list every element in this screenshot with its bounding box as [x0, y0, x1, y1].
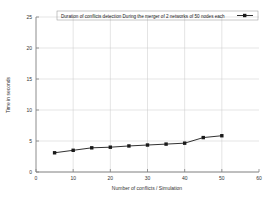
data-series — [53, 134, 224, 154]
legend-label-0: Duration of conflicts detection During t… — [61, 14, 225, 19]
y-tick-label: 15 — [26, 76, 32, 82]
series-markers-0 — [53, 134, 224, 154]
x-tick-label: 60 — [256, 175, 262, 181]
y-tick-label: 25 — [26, 14, 32, 20]
grid-lines — [36, 17, 259, 172]
x-tick-label: 40 — [182, 175, 188, 181]
chart-container: 0510152025 0102030405060 Number of confl… — [0, 0, 277, 200]
y-tick-label: 5 — [29, 138, 32, 144]
y-tick-label: 20 — [26, 45, 32, 51]
data-point — [109, 146, 112, 149]
x-tick-label: 30 — [145, 175, 151, 181]
x-axis-title: Number of conflicts / Simulation — [112, 185, 183, 191]
legend-key-marker — [243, 14, 246, 17]
data-point — [220, 134, 223, 137]
y-tick-labels: 0510152025 — [26, 14, 32, 175]
line-chart: 0510152025 0102030405060 Number of confl… — [0, 0, 277, 200]
x-tick-labels: 0102030405060 — [35, 175, 262, 181]
data-point — [127, 144, 130, 147]
x-tick-label: 50 — [219, 175, 225, 181]
x-tick-label: 10 — [70, 175, 76, 181]
x-tick-label: 20 — [108, 175, 114, 181]
x-tick-label: 0 — [35, 175, 38, 181]
data-point — [90, 146, 93, 149]
data-point — [146, 143, 149, 146]
data-point — [53, 151, 56, 154]
data-point — [164, 142, 167, 145]
data-point — [183, 141, 186, 144]
y-axis-title: Time in seconds — [5, 76, 11, 113]
series-line-0 — [55, 136, 222, 153]
data-point — [71, 149, 74, 152]
data-point — [202, 136, 205, 139]
legend: Duration of conflicts detection During t… — [57, 11, 258, 20]
y-tick-label: 10 — [26, 107, 32, 113]
y-tick-label: 0 — [29, 169, 32, 175]
